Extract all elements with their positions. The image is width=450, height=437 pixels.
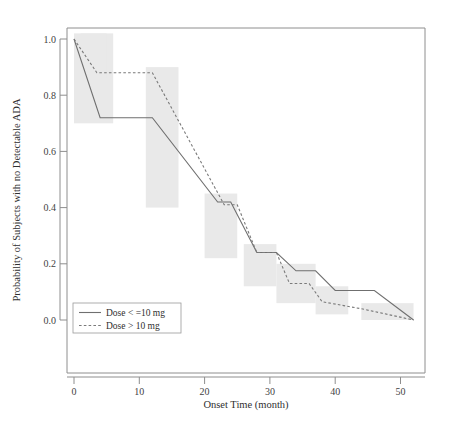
x-tick-label: 20 (200, 386, 210, 397)
y-tick-label: 0.4 (44, 202, 57, 213)
confidence-band (361, 303, 413, 320)
x-tick-label: 50 (396, 386, 406, 397)
y-tick-label: 1.0 (44, 34, 57, 45)
confidence-band (244, 244, 277, 286)
x-axis-title: Onset Time (month) (203, 399, 289, 411)
x-axis-ticks: 01020304050 (67, 377, 425, 397)
x-tick-label: 0 (72, 386, 77, 397)
confidence-band (146, 67, 179, 208)
y-tick-label: 0.0 (44, 315, 57, 326)
confidence-band-group (74, 33, 414, 320)
survival-curve-chart: 0.00.20.40.60.81.0 01020304050 Onset Tim… (0, 0, 450, 437)
x-tick-label: 40 (330, 386, 340, 397)
x-tick-label: 30 (265, 386, 275, 397)
y-tick-label: 0.8 (44, 90, 57, 101)
y-axis-title: Probability of Subjects with no Detectab… (11, 98, 22, 301)
x-tick-label: 10 (134, 386, 144, 397)
y-axis-ticks: 0.00.20.40.60.81.0 (44, 34, 68, 326)
confidence-band (205, 194, 238, 259)
chart-legend: Dose < =10 mg Dose > 10 mg (73, 303, 181, 333)
chart-figure: 0.00.20.40.60.81.0 01020304050 Onset Tim… (0, 0, 450, 437)
y-tick-label: 0.6 (44, 146, 57, 157)
y-tick-label: 0.2 (44, 258, 57, 269)
legend-label-dose-gt-10: Dose > 10 mg (106, 321, 160, 331)
legend-label-dose-lte-10: Dose < =10 mg (106, 308, 165, 318)
